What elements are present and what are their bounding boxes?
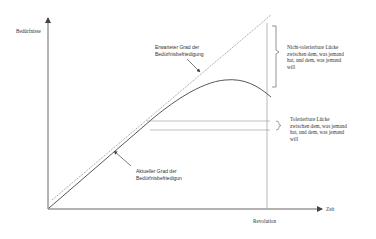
- tolerable-gap-label: Tolerierbare Lücke zwischen dem, was jem…: [290, 116, 347, 142]
- expected-satisfaction-label: Erwarteter Grad der Bedürfnisbefriedigun…: [155, 44, 204, 57]
- y-axis-label: Bedürfnisse: [16, 28, 41, 35]
- tolerable-gap-brace: [276, 121, 281, 130]
- x-axis-label: Zeit: [326, 206, 334, 213]
- actual-satisfaction-curve: [49, 80, 271, 208]
- intolerable-gap-bracket: [272, 26, 279, 87]
- revolution-label: Revolution: [253, 218, 276, 225]
- intolerable-gap-label: Nicht-tolerierbare Lücke zwischen dem, w…: [287, 44, 344, 70]
- actual-satisfaction-label: Aktueller Grad der Bedürfnisbefriedigun: [136, 168, 182, 181]
- expected-label-pointer: [187, 59, 200, 72]
- actual-label-pointer: [114, 151, 131, 166]
